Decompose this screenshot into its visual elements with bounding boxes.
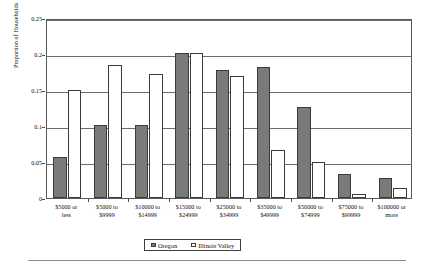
x-tick-label: $5000 orless xyxy=(46,203,87,220)
x-tick-label: $5000 to$9999 xyxy=(87,203,128,220)
x-tick-label-line: $14999 xyxy=(127,211,168,219)
x-tick-mark xyxy=(332,198,333,202)
bar-group xyxy=(332,20,373,198)
y-tick-mark xyxy=(42,163,45,164)
bar-group xyxy=(128,20,169,198)
x-tick-label-line: $100000 or xyxy=(371,203,412,211)
x-tick-label-line: $10000 to xyxy=(127,203,168,211)
legend-swatch-icon xyxy=(151,243,156,248)
plot-area xyxy=(46,19,412,199)
bar-oregon xyxy=(297,107,311,198)
x-tick-label-line: $25000 to xyxy=(209,203,250,211)
x-tick-label: $100000 ormore xyxy=(371,203,412,220)
bar-illinois-valley xyxy=(312,162,326,198)
x-tick-mark xyxy=(250,198,251,202)
bar-oregon xyxy=(216,70,230,198)
y-tick-mark xyxy=(42,127,45,128)
x-tick-label-line: $15000 to xyxy=(168,203,209,211)
x-tick-label-line: $50000 to xyxy=(290,203,331,211)
legend-label: Illinois Valley xyxy=(198,242,234,249)
x-tick-label: $50000 to$74999 xyxy=(290,203,331,220)
bar-illinois-valley xyxy=(190,53,204,198)
bar-group xyxy=(88,20,129,198)
bar-illinois-valley xyxy=(271,150,285,198)
bar-oregon xyxy=(379,178,393,198)
chart-legend: OregonIllinois Valley xyxy=(144,239,241,251)
bar-oregon xyxy=(257,67,271,198)
x-tick-label-line: $49999 xyxy=(249,211,290,219)
y-tick-mark xyxy=(42,199,45,200)
chart-figure: Proportion of Households 00.050.10.150.2… xyxy=(0,0,428,269)
bar-oregon xyxy=(94,125,108,198)
bar-group xyxy=(372,20,413,198)
bar-group xyxy=(210,20,251,198)
bar-oregon xyxy=(53,157,67,198)
x-tick-label-line: more xyxy=(371,211,412,219)
x-tick-label-line: $34999 xyxy=(209,211,250,219)
y-tick-mark xyxy=(42,19,45,20)
y-tick-label: 0.25 xyxy=(2,16,42,22)
bar-illinois-valley xyxy=(393,188,407,198)
x-tick-label: $75000 to$99999 xyxy=(331,203,372,220)
x-tick-label: $10000 to$14999 xyxy=(127,203,168,220)
legend-item[interactable]: Oregon xyxy=(151,242,177,249)
x-tick-label-line: $75000 to xyxy=(331,203,372,211)
bar-group xyxy=(250,20,291,198)
x-tick-mark xyxy=(291,198,292,202)
x-tick-mark xyxy=(88,198,89,202)
y-tick-mark xyxy=(42,91,45,92)
bar-illinois-valley xyxy=(108,65,122,198)
y-tick-label: 0 xyxy=(2,196,42,202)
x-tick-mark xyxy=(128,198,129,202)
y-tick-mark xyxy=(42,55,45,56)
legend-item[interactable]: Illinois Valley xyxy=(191,242,234,249)
x-tick-label-line: less xyxy=(46,211,87,219)
x-tick-mark xyxy=(169,198,170,202)
bar-illinois-valley xyxy=(149,74,163,198)
x-tick-label: $35000 to$49999 xyxy=(249,203,290,220)
x-tick-label-line: $9999 xyxy=(87,211,128,219)
x-tick-label-line: $5000 to xyxy=(87,203,128,211)
bar-illinois-valley xyxy=(352,194,366,198)
legend-label: Oregon xyxy=(158,242,177,249)
bar-group xyxy=(47,20,88,198)
bar-oregon xyxy=(175,53,189,198)
bar-illinois-valley xyxy=(68,90,82,198)
y-tick-label: 0.1 xyxy=(2,124,42,130)
bar-group xyxy=(291,20,332,198)
bar-group xyxy=(169,20,210,198)
x-tick-label-line: $74999 xyxy=(290,211,331,219)
footer-divider xyxy=(28,260,406,261)
y-tick-label: 0.15 xyxy=(2,88,42,94)
x-tick-label-line: $99999 xyxy=(331,211,372,219)
x-tick-label-line: $35000 to xyxy=(249,203,290,211)
x-tick-label-line: $5000 or xyxy=(46,203,87,211)
bar-oregon xyxy=(338,174,352,198)
x-axis-tick-labels: $5000 orless$5000 to$9999$10000 to$14999… xyxy=(46,203,412,231)
x-tick-mark xyxy=(210,198,211,202)
y-tick-label: 0.05 xyxy=(2,160,42,166)
bar-illinois-valley xyxy=(230,76,244,198)
bar-oregon xyxy=(135,125,149,198)
legend-swatch-icon xyxy=(191,243,196,248)
x-tick-label: $15000 to$24999 xyxy=(168,203,209,220)
y-tick-label: 0.2 xyxy=(2,52,42,58)
x-tick-mark xyxy=(372,198,373,202)
x-tick-label-line: $24999 xyxy=(168,211,209,219)
x-tick-label: $25000 to$34999 xyxy=(209,203,250,220)
y-axis-tick-labels: 00.050.10.150.20.25 xyxy=(0,19,42,199)
